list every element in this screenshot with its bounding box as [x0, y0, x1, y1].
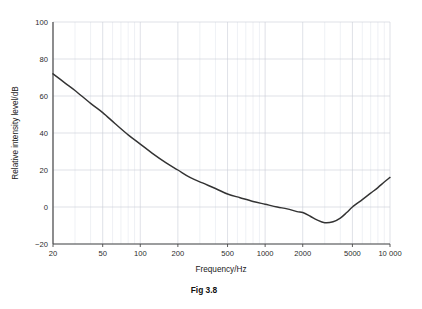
- x-axis-tick-labels: 205010020050010002000500010 000: [49, 249, 402, 258]
- x-tick-label: 2000: [294, 249, 311, 258]
- x-tick-label: 20: [49, 249, 57, 258]
- y-axis-title: Relative intensity level/dB: [11, 86, 20, 180]
- x-axis-title: Frequency/Hz: [196, 265, 247, 274]
- figure-caption: Fig 3.8: [191, 285, 218, 295]
- y-tick-label: 100: [35, 18, 48, 27]
- x-tick-label: 500: [221, 249, 234, 258]
- y-tick-label: −20: [35, 240, 48, 249]
- x-tick-label: 5000: [344, 249, 361, 258]
- y-tick-label: 60: [40, 92, 48, 101]
- x-tick-label: 200: [172, 249, 185, 258]
- chart-canvas: 205010020050010002000500010 000 −2002040…: [0, 0, 422, 309]
- y-tick-label: 0: [44, 203, 48, 212]
- y-axis-tick-labels: −20020406080100: [35, 18, 48, 249]
- x-tick-label: 100: [134, 249, 147, 258]
- y-tick-label: 80: [40, 55, 48, 64]
- figure-container: 205010020050010002000500010 000 −2002040…: [0, 0, 422, 309]
- x-tick-label: 1000: [257, 249, 274, 258]
- x-tick-label: 50: [98, 249, 106, 258]
- y-tick-label: 40: [40, 129, 48, 138]
- y-tick-label: 20: [40, 166, 48, 175]
- x-tick-label: 10 000: [378, 249, 401, 258]
